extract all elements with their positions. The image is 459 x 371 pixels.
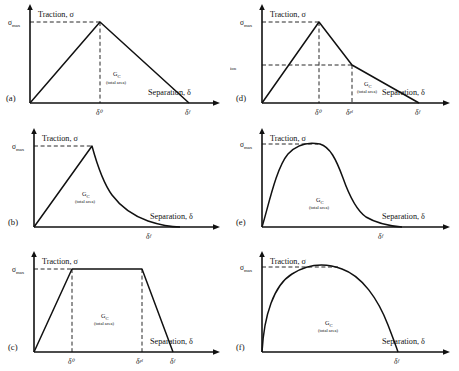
- x-axis-label-a: Separation, δ: [148, 88, 191, 97]
- x-axis-arrow: [443, 349, 450, 355]
- panel-b: Traction, σ Separation, δ σmax δᶠ GC (to…: [0, 122, 229, 245]
- sigma-max-label-a: σmax: [8, 18, 21, 28]
- tick-delta-final-f: δᶠ: [394, 357, 400, 366]
- x-axis-arrow: [213, 100, 220, 106]
- area-label-c: GC: [101, 312, 109, 321]
- area-sublabel-e: (total area): [309, 205, 329, 210]
- x-axis-label-e: Separation, δ: [382, 212, 425, 221]
- panel-letter-b: (b): [8, 217, 18, 227]
- panel-c: Traction, σ Separation, δ σmax δ⁰ δᵖˡ δᶠ…: [0, 245, 229, 371]
- axes-a: [27, 4, 220, 106]
- area-sublabel-f: (total area): [318, 328, 338, 333]
- y-axis-label-e: Traction, σ: [270, 134, 307, 143]
- panel-e: Traction, σ Separation, δ σmax δᶠ GC (to…: [230, 122, 459, 245]
- x-axis-arrow: [213, 224, 220, 230]
- panel-d: Traction, σ Separation, δ σmax σtransiti…: [230, 0, 459, 123]
- tick-delta-final-b: δᶠ: [146, 232, 152, 241]
- panel-f: Traction, σ Separation, δ σmax δᶠ GC (to…: [230, 245, 459, 371]
- area-label-d: GC: [364, 80, 372, 89]
- sigma-max-label-b: σmax: [12, 142, 25, 152]
- panel-a: Traction, σ Separation, δ σmax δ⁰ δᶠ GC …: [0, 0, 229, 123]
- y-axis-arrow: [259, 4, 265, 10]
- y-axis-label-c: Traction, σ: [42, 257, 79, 266]
- panel-letter-e: (e): [236, 217, 246, 227]
- traction-curve-f: [262, 265, 398, 352]
- panel-letter-a: (a): [6, 93, 16, 103]
- y-axis-arrow: [27, 4, 33, 10]
- y-axis-arrow: [259, 251, 265, 257]
- sigma-max-label-f: σmax: [240, 263, 253, 273]
- x-axis-label-c: Separation, δ: [150, 337, 193, 346]
- panel-letter-f: (f): [236, 342, 245, 352]
- panel-letter-c: (c): [8, 342, 18, 352]
- area-sublabel-d: (total area): [357, 89, 377, 94]
- traction-separation-figure: Traction, σ Separation, δ σmax δ⁰ δᶠ GC …: [0, 0, 459, 371]
- y-axis-label-b: Traction, σ: [42, 134, 79, 143]
- tick-delta-final-e: δᶠ: [378, 232, 384, 241]
- area-sublabel-c: (total area): [94, 321, 114, 326]
- x-axis-arrow: [213, 349, 220, 355]
- panel-letter-d: (d): [236, 93, 246, 103]
- x-axis-label-b: Separation, δ: [150, 212, 193, 221]
- area-sublabel-b: (total area): [75, 199, 95, 204]
- y-axis-arrow: [259, 128, 265, 134]
- x-axis-label-d: Separation, δ: [382, 88, 425, 97]
- tick-delta-final-c: δᶠ: [170, 357, 176, 366]
- y-axis-label-f: Traction, σ: [270, 257, 307, 266]
- tick-delta-plateau-c: δᵖˡ: [136, 357, 144, 366]
- tick-delta-final-d: δᶠ: [415, 108, 421, 117]
- y-axis-arrow: [31, 251, 37, 257]
- tick-delta-onset-a: δ⁰: [96, 108, 103, 117]
- tick-delta-plateau-d: δᵖˡ: [346, 108, 354, 117]
- tick-delta-onset-d: δ⁰: [315, 108, 322, 117]
- area-label-f: GC: [325, 319, 333, 328]
- y-axis-label-a: Traction, σ: [38, 10, 75, 19]
- y-axis-arrow: [31, 128, 37, 134]
- tick-delta-final-a: δᶠ: [185, 108, 191, 117]
- sigma-max-label-c: σmax: [12, 265, 25, 275]
- area-label-e: GC: [316, 196, 324, 205]
- x-axis-arrow: [443, 224, 450, 230]
- x-axis-arrow: [443, 100, 450, 106]
- sigma-max-label-d: σmax: [240, 18, 253, 28]
- area-sublabel-a: (total area): [106, 80, 126, 85]
- tick-delta-onset-c: δ⁰: [68, 357, 75, 366]
- sigma-max-label-e: σmax: [240, 140, 253, 150]
- traction-curve-e: [262, 143, 402, 227]
- y-axis-label-d: Traction, σ: [270, 10, 307, 19]
- sigma-transition-label-d: σtransition: [230, 61, 237, 71]
- area-label-b: GC: [82, 190, 90, 199]
- area-label-a: GC: [113, 70, 121, 79]
- x-axis-label-f: Separation, δ: [382, 337, 425, 346]
